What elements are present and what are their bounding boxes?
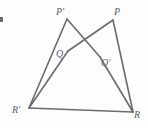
seg-Rprime-R [29, 108, 133, 112]
segments-group [29, 19, 133, 112]
vertex-label-P-prime: P' [56, 7, 64, 17]
vertex-label-Q: Q [56, 49, 63, 59]
seg-Pprime-Qprime [67, 19, 100, 57]
geometry-figure: P'PQQ'R'R [0, 0, 148, 128]
vertex-label-Q-prime: Q' [101, 58, 110, 68]
vertex-label-P: P [114, 7, 120, 17]
vertex-label-R: R [134, 110, 140, 120]
figure-canvas [0, 0, 148, 128]
seg-Pprime-Rprime [29, 19, 67, 108]
seg-P-R [113, 20, 133, 112]
seg-Q-Rprime [29, 51, 68, 108]
corner-mark [0, 17, 3, 22]
vertex-label-R-prime: R' [12, 105, 20, 115]
